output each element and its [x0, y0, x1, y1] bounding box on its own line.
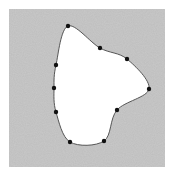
control-point — [68, 140, 72, 144]
control-point — [98, 46, 102, 50]
control-point — [66, 24, 70, 28]
control-point — [115, 108, 119, 112]
control-point — [102, 139, 106, 143]
control-point — [52, 86, 56, 90]
control-point — [147, 87, 151, 91]
control-point — [125, 57, 129, 61]
control-point — [54, 110, 58, 114]
control-point — [54, 63, 58, 67]
closed-curve-diagram — [0, 0, 173, 174]
